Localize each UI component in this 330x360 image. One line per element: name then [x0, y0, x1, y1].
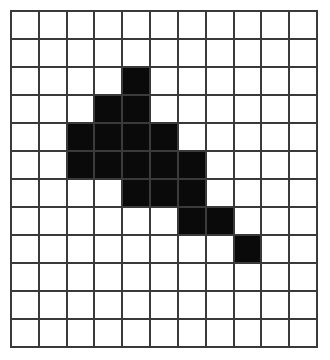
grid-cell-empty: [207, 320, 235, 348]
grid-cell-empty: [123, 292, 151, 320]
grid-cell-empty: [12, 96, 40, 124]
grid-cell-empty: [179, 96, 207, 124]
grid-cell-filled: [207, 208, 235, 236]
grid-cell-empty: [262, 68, 290, 96]
grid-cell-empty: [12, 208, 40, 236]
grid-cell-empty: [151, 320, 179, 348]
grid-cell-empty: [262, 124, 290, 152]
grid-cell-empty: [12, 152, 40, 180]
grid-cell-empty: [68, 68, 96, 96]
grid-cell-empty: [40, 264, 68, 292]
grid-cell-empty: [12, 180, 40, 208]
grid-cell-empty: [151, 12, 179, 40]
grid-cell-empty: [151, 96, 179, 124]
grid-cell-empty: [95, 320, 123, 348]
grid-cell-empty: [68, 12, 96, 40]
grid-cell-empty: [40, 208, 68, 236]
grid-cell-empty: [235, 152, 263, 180]
grid-cell-empty: [290, 320, 318, 348]
grid-cell-filled: [179, 208, 207, 236]
grid-cell-empty: [207, 96, 235, 124]
grid-cell-empty: [235, 180, 263, 208]
grid-cell-empty: [262, 264, 290, 292]
grid-cell-empty: [151, 208, 179, 236]
grid-cell-empty: [290, 96, 318, 124]
grid-cell-empty: [123, 208, 151, 236]
grid-cell-empty: [235, 264, 263, 292]
grid-cell-empty: [207, 180, 235, 208]
grid-cell-empty: [123, 264, 151, 292]
grid-cell-empty: [179, 40, 207, 68]
grid-cell-empty: [290, 12, 318, 40]
grid-cell-empty: [151, 292, 179, 320]
grid-cell-empty: [235, 320, 263, 348]
grid-cell-empty: [68, 96, 96, 124]
grid-cell-empty: [40, 320, 68, 348]
grid-cell-empty: [12, 264, 40, 292]
grid-cell-empty: [235, 96, 263, 124]
grid-cell-empty: [290, 40, 318, 68]
grid-cell-empty: [12, 12, 40, 40]
grid-cell-empty: [40, 236, 68, 264]
grid-cell-empty: [95, 180, 123, 208]
grid-cell-empty: [68, 320, 96, 348]
grid-cell-empty: [123, 236, 151, 264]
grid-cell-filled: [179, 180, 207, 208]
grid-cell-empty: [12, 236, 40, 264]
grid-cell-empty: [12, 124, 40, 152]
grid-cell-empty: [95, 40, 123, 68]
grid-cell-empty: [262, 236, 290, 264]
grid-cell-empty: [290, 292, 318, 320]
grid-cell-filled: [68, 152, 96, 180]
grid-cell-empty: [95, 236, 123, 264]
grid-cell-empty: [207, 292, 235, 320]
grid-cell-empty: [207, 68, 235, 96]
grid-cell-empty: [207, 264, 235, 292]
grid-cell-empty: [290, 236, 318, 264]
grid-cell-empty: [179, 236, 207, 264]
grid-cell-filled: [151, 180, 179, 208]
grid-cell-empty: [207, 12, 235, 40]
grid-cell-empty: [151, 236, 179, 264]
pixel-grid: [10, 10, 318, 348]
grid-cell-empty: [179, 292, 207, 320]
grid-cell-empty: [95, 68, 123, 96]
grid-cell-filled: [68, 124, 96, 152]
grid-cell-empty: [262, 180, 290, 208]
grid-cell-empty: [123, 320, 151, 348]
grid-cell-filled: [123, 68, 151, 96]
grid-cell-filled: [235, 236, 263, 264]
grid-cell-filled: [123, 124, 151, 152]
grid-cell-filled: [151, 124, 179, 152]
grid-cell-empty: [12, 40, 40, 68]
grid-cell-empty: [179, 264, 207, 292]
grid-cell-empty: [235, 12, 263, 40]
grid-cell-empty: [179, 124, 207, 152]
grid-cell-empty: [179, 68, 207, 96]
grid-cell-empty: [95, 208, 123, 236]
grid-cell-empty: [235, 208, 263, 236]
grid-cell-empty: [262, 292, 290, 320]
grid-cell-empty: [68, 40, 96, 68]
grid-cell-empty: [207, 152, 235, 180]
grid-cell-empty: [68, 264, 96, 292]
grid-cell-empty: [235, 124, 263, 152]
grid-cell-empty: [235, 68, 263, 96]
grid-cell-empty: [235, 40, 263, 68]
grid-cell-empty: [262, 40, 290, 68]
grid-cell-empty: [262, 96, 290, 124]
grid-cell-empty: [40, 68, 68, 96]
grid-cell-filled: [123, 180, 151, 208]
grid-cell-filled: [179, 152, 207, 180]
grid-cell-empty: [151, 264, 179, 292]
grid-cell-empty: [68, 236, 96, 264]
grid-cell-empty: [95, 12, 123, 40]
grid-cell-empty: [290, 208, 318, 236]
grid-cell-empty: [262, 320, 290, 348]
grid-cell-empty: [12, 292, 40, 320]
grid-cell-empty: [40, 292, 68, 320]
grid-cell-empty: [68, 292, 96, 320]
grid-cell-filled: [95, 124, 123, 152]
grid-cell-empty: [179, 12, 207, 40]
grid-cell-empty: [68, 208, 96, 236]
